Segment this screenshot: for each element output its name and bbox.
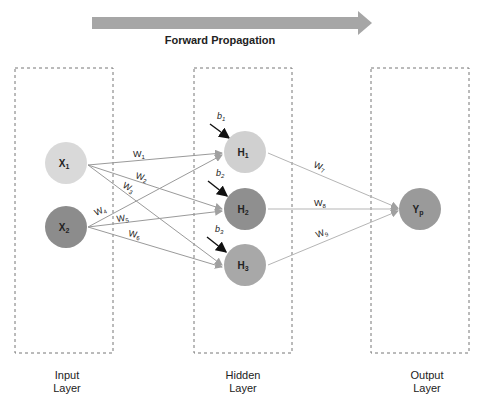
- output-layer-label: Output Layer: [387, 369, 467, 395]
- hidden-layer-label-line2: Layer: [203, 382, 283, 395]
- input-layer-label: Input Layer: [27, 369, 107, 395]
- bias-b1-label: b1: [217, 111, 225, 122]
- weight-w9-label: W9: [314, 226, 330, 241]
- forward-propagation-arrow: [92, 11, 372, 35]
- weight-w2-label: W2: [134, 170, 149, 184]
- weight-w1-label: W1: [133, 149, 146, 160]
- weight-w4-label: W4: [93, 203, 109, 218]
- hidden-layer-label: Hidden Layer: [203, 369, 283, 395]
- weight-w3-label: W3: [121, 180, 137, 196]
- diagram-title: Forward Propagation: [150, 34, 290, 46]
- input-layer-label-line1: Input: [27, 369, 107, 382]
- bias-b2-label: b2: [216, 168, 225, 179]
- bias-b3-label: b3: [215, 224, 224, 235]
- edges-hidden-output: [268, 153, 398, 265]
- input-layer-label-line2: Layer: [27, 382, 107, 395]
- neural-network-diagram: X1 X2 H1 H2 H3 Yp W1 W2 W3 W4 W5 W6 W7 W…: [0, 0, 482, 406]
- weight-w8-label: W8: [314, 198, 327, 209]
- output-layer-label-line2: Layer: [387, 382, 467, 395]
- hidden-layer-label-line1: Hidden: [203, 369, 283, 382]
- weight-w5-label: W5: [116, 212, 130, 225]
- output-layer-label-line1: Output: [387, 369, 467, 382]
- edges-input-hidden: [88, 153, 222, 267]
